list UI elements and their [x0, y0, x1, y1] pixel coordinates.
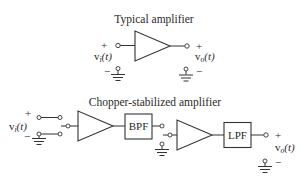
chopper-output-plus: + — [275, 129, 281, 141]
lpf-label: LPF — [228, 129, 247, 141]
typical-input-terminal — [116, 43, 120, 47]
ground-icon — [258, 159, 272, 173]
output-chopper-switch-icon — [152, 124, 177, 146]
ground-icon — [32, 136, 46, 145]
typical-output-label: vo(t) — [195, 50, 215, 64]
chopper-amplifier-title: Chopper-stabilized amplifier — [89, 96, 221, 109]
chopper-output-label: vo(t) — [275, 141, 295, 155]
typical-amplifier-title: Typical amplifier — [114, 13, 194, 26]
chopper-amplifier-section: Chopper-stabilized amplifier + vi(t) − — [9, 96, 295, 173]
chopper-output-minus: − — [275, 156, 281, 168]
ground-icon — [179, 67, 193, 81]
chopper-input-plus: + — [25, 107, 31, 119]
ground-icon — [155, 146, 169, 156]
chopper-output-terminal — [264, 133, 268, 137]
typical-output-terminal — [185, 44, 189, 48]
ground-icon — [111, 67, 125, 81]
amplifier-diagram: Typical amplifier + vi(t) − + vo(t) — [0, 0, 301, 188]
input-chopper-switch-icon — [37, 116, 78, 137]
amplifier-triangle-icon — [78, 111, 113, 141]
typical-input-minus: − — [104, 65, 110, 77]
typical-output-minus: − — [196, 65, 202, 77]
typical-input-label: vi(t) — [94, 50, 112, 64]
chopper-input-minus: − — [24, 130, 30, 142]
typical-amplifier-section: Typical amplifier + vi(t) − + vo(t) — [94, 13, 215, 81]
amplifier-triangle-icon — [177, 120, 212, 150]
bpf-label: BPF — [129, 120, 149, 132]
amplifier-triangle-icon — [135, 31, 170, 61]
